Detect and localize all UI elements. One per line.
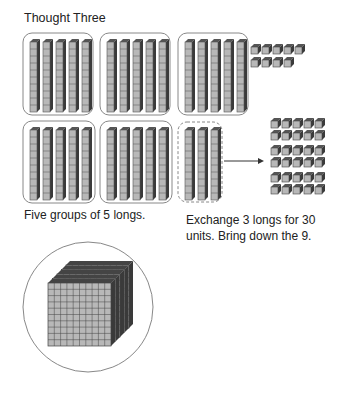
longs (30, 39, 247, 200)
unit-cubes (251, 44, 325, 194)
base-ten-blocks-diagram (0, 0, 339, 393)
caption-five-groups: Five groups of 5 longs. (24, 208, 145, 223)
exchange-arrow (224, 158, 264, 164)
flats-stack (23, 242, 153, 372)
caption-exchange-line2: units. Bring down the 9. (186, 229, 311, 244)
caption-exchange-line1: Exchange 3 longs for 30 (186, 213, 315, 228)
